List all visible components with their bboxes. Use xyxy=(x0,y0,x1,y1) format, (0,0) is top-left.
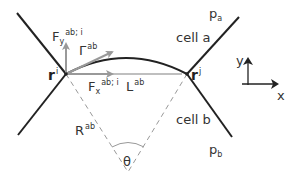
ri-base: r xyxy=(48,67,55,83)
ri-sup: i xyxy=(56,67,58,76)
edge-lower-right xyxy=(187,74,232,137)
label-ri: ri xyxy=(48,68,58,82)
l-base: L xyxy=(126,79,133,94)
fy-sup: ab; i xyxy=(65,28,82,37)
theta-arc xyxy=(112,143,144,148)
rj-base: r xyxy=(191,67,198,83)
label-pb: pb xyxy=(209,143,222,156)
diagram-svg xyxy=(0,0,298,186)
fx-sup: ab; i xyxy=(101,78,118,87)
l-sup: ab xyxy=(134,78,144,87)
diagram-canvas: Fyab; i Γab Fxab; i Lab ri rj Rab θ pa p… xyxy=(0,0,298,186)
label-axis-x: x xyxy=(277,89,285,102)
gamma-base: Γ xyxy=(79,43,86,58)
label-gamma: Γab xyxy=(79,44,97,57)
label-cell-b: cell b xyxy=(176,113,211,126)
pb-sub: b xyxy=(217,150,222,159)
fx-sub: x xyxy=(95,87,100,96)
pa-sub: a xyxy=(217,14,222,23)
label-theta: θ xyxy=(123,155,131,168)
vertex-j xyxy=(185,72,189,76)
label-force-x: Fxab; i xyxy=(88,80,119,93)
label-axis-y: y xyxy=(236,54,244,67)
r-sup: ab xyxy=(85,122,95,131)
label-L: Lab xyxy=(126,80,144,93)
label-R: Rab xyxy=(75,124,95,137)
edge-lower-left xyxy=(18,74,66,135)
gamma-sup: ab xyxy=(87,42,97,51)
vertex-i xyxy=(64,72,68,76)
r-base: R xyxy=(75,123,84,138)
label-rj: rj xyxy=(191,68,201,82)
rj-sup: j xyxy=(199,67,201,76)
label-pa: pa xyxy=(209,7,222,20)
label-cell-a: cell a xyxy=(176,31,210,44)
label-force-y: Fyab; i xyxy=(52,30,83,43)
fy-sub: y xyxy=(59,37,64,46)
edge-upper-right xyxy=(187,17,239,74)
